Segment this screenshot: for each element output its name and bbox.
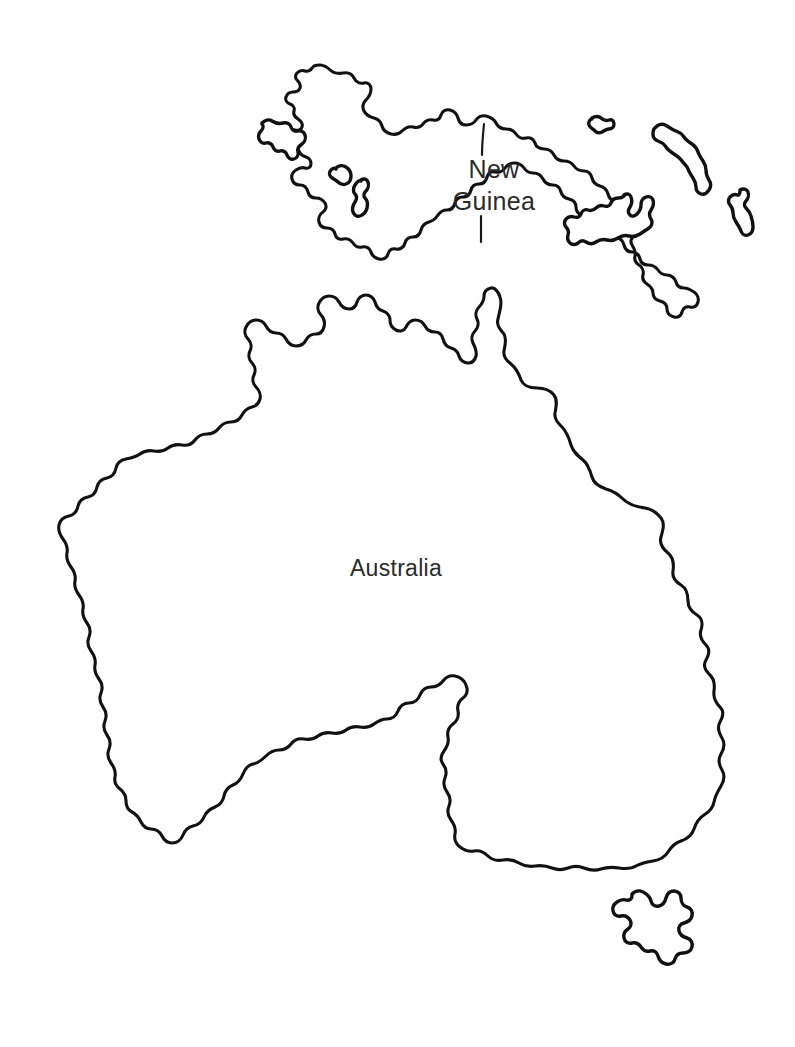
landmass-bougainville [729,189,754,235]
landmass-tasmania [613,891,693,964]
landmass-halmahera [259,120,306,159]
landmass-new-ireland [653,125,711,195]
landmass-manus [589,117,614,133]
map-outline-svg: Australia New Guinea [0,0,795,1047]
label-new-guinea-line1: New [469,155,521,183]
landmass-misool [353,179,369,216]
label-australia: Australia [350,555,442,581]
label-new-guinea-line2: Guinea [453,187,535,215]
map-canvas: Australia New Guinea [0,0,795,1047]
